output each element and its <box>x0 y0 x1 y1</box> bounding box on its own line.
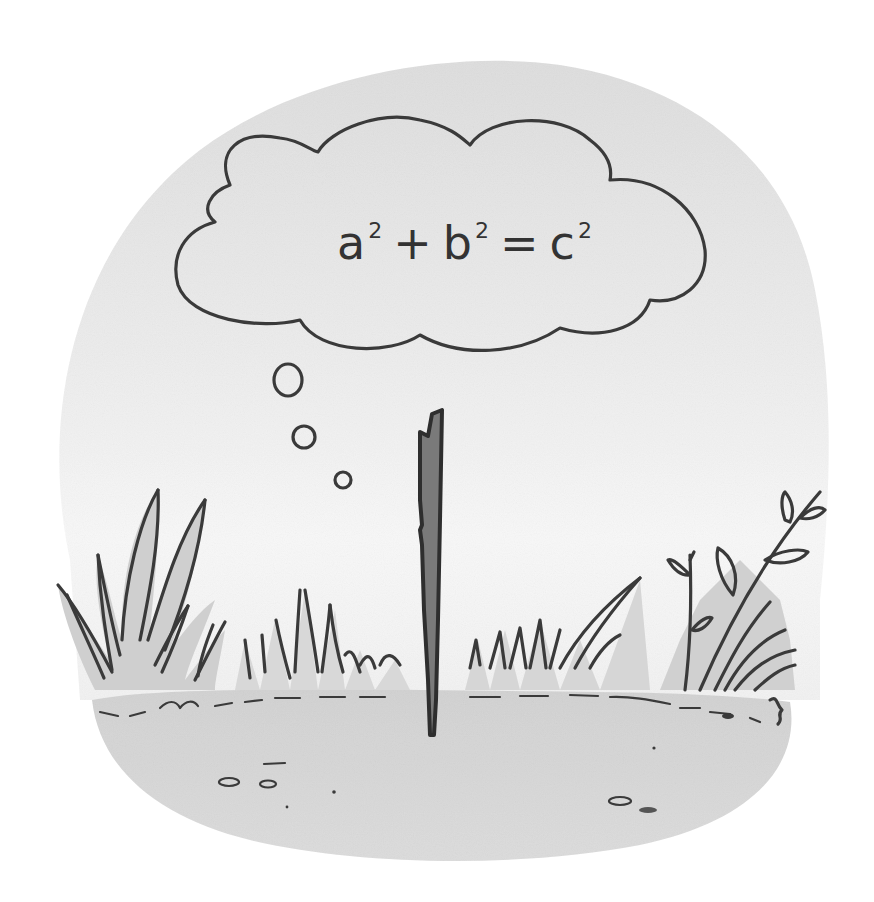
equation-term-a: a2 <box>337 216 383 270</box>
equation-exponent-a: 2 <box>368 220 383 242</box>
equation-term-b: b2 <box>443 216 490 270</box>
equation-term-c: c2 <box>550 216 593 270</box>
equation-base-a: a <box>337 216 366 270</box>
equation-exponent-c: 2 <box>578 220 593 242</box>
equation-equals: = <box>500 216 540 270</box>
equation-exponent-b: 2 <box>475 220 490 242</box>
ground-wash <box>92 689 791 861</box>
equation-base-b: b <box>443 216 473 270</box>
equation-plus: + <box>393 216 433 270</box>
thought-equation: a2 + b2 = c2 <box>300 208 630 278</box>
equation-base-c: c <box>550 216 576 270</box>
cartoon-scene <box>0 0 874 902</box>
